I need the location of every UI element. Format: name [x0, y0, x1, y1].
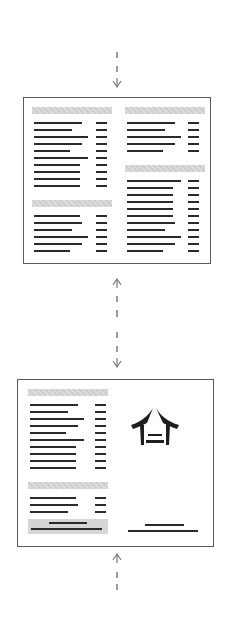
menu-item-line	[127, 150, 163, 152]
price-line	[96, 171, 107, 173]
section-header-bar	[28, 482, 108, 489]
price-line	[188, 180, 199, 182]
price-line	[188, 187, 199, 189]
menu-item-line	[127, 187, 173, 189]
price-line	[188, 129, 199, 131]
price-line	[96, 164, 107, 166]
price-line	[188, 208, 199, 210]
price-line	[95, 411, 106, 413]
menu-item-line	[127, 180, 181, 182]
menu-item-line	[34, 157, 88, 159]
price-line	[95, 467, 106, 469]
price-line	[95, 432, 106, 434]
menu-item-line	[30, 418, 84, 420]
section-header-bar	[125, 107, 205, 114]
price-line	[188, 136, 199, 138]
bottom-arrow	[110, 552, 124, 592]
section-header-bar	[28, 389, 108, 396]
menu-item-line	[34, 215, 80, 217]
menu-item-line	[127, 243, 175, 245]
menu-item-line	[30, 439, 84, 441]
contact-line	[145, 524, 184, 526]
price-line	[188, 236, 199, 238]
menu-item-line	[127, 129, 165, 131]
price-line	[96, 143, 107, 145]
menu-item-line	[34, 250, 70, 252]
menu-item-line	[34, 122, 82, 124]
section-header-bar	[32, 200, 112, 207]
price-line	[96, 243, 107, 245]
price-line	[96, 136, 107, 138]
price-line	[188, 215, 199, 217]
menu-item-line	[127, 136, 181, 138]
menu-item-line	[127, 122, 175, 124]
middle-arrow	[110, 272, 124, 372]
price-line	[188, 250, 199, 252]
menu-item-line	[30, 432, 66, 434]
price-line	[96, 150, 107, 152]
price-line	[96, 129, 107, 131]
price-line	[96, 229, 107, 231]
menu-item-line	[30, 497, 76, 499]
arrow-up-icon	[110, 552, 124, 592]
price-line	[95, 460, 106, 462]
price-line	[188, 201, 199, 203]
footer-line	[49, 522, 87, 524]
menu-item-line	[34, 171, 80, 173]
price-line	[95, 446, 106, 448]
menu-item-line	[127, 222, 175, 224]
menu-item-line	[34, 229, 72, 231]
price-line	[95, 497, 106, 499]
menu-item-line	[30, 404, 78, 406]
price-line	[95, 511, 106, 513]
price-line	[95, 504, 106, 506]
menu-item-line	[34, 129, 72, 131]
menu-item-line	[30, 446, 76, 448]
menu-item-line	[127, 236, 181, 238]
price-line	[96, 157, 107, 159]
menu-item-line	[34, 143, 82, 145]
menu-item-line	[30, 467, 76, 469]
menu-item-line	[30, 453, 76, 455]
menu-item-line	[34, 150, 70, 152]
menu-item-line	[127, 194, 173, 196]
menu-item-line	[30, 425, 78, 427]
pagoda-roof-icon	[129, 405, 181, 449]
menu-item-line	[34, 222, 82, 224]
price-line	[188, 122, 199, 124]
menu-item-line	[30, 460, 76, 462]
price-line	[188, 150, 199, 152]
price-line	[188, 222, 199, 224]
price-line	[188, 243, 199, 245]
menu-item-line	[34, 136, 88, 138]
menu-item-line	[34, 243, 82, 245]
top-arrow	[110, 50, 124, 90]
menu-item-line	[34, 185, 80, 187]
menu-item-line	[127, 208, 173, 210]
menu-item-line	[127, 201, 173, 203]
menu-item-line	[127, 229, 165, 231]
price-line	[96, 222, 107, 224]
price-line	[96, 236, 107, 238]
price-line	[96, 250, 107, 252]
menu-item-line	[34, 236, 88, 238]
menu-item-line	[30, 411, 68, 413]
section-header-bar	[32, 107, 112, 114]
price-line	[95, 404, 106, 406]
menu-item-line	[30, 511, 68, 513]
price-line	[95, 439, 106, 441]
menu-item-line	[127, 215, 173, 217]
price-line	[188, 229, 199, 231]
price-line	[95, 418, 106, 420]
menu-item-line	[30, 504, 78, 506]
arrow-bidirectional-icon	[110, 272, 124, 372]
price-line	[188, 143, 199, 145]
price-line	[96, 215, 107, 217]
section-header-bar	[125, 165, 205, 172]
menu-item-line	[127, 143, 175, 145]
price-line	[95, 425, 106, 427]
price-line	[96, 178, 107, 180]
menu-item-line	[34, 164, 80, 166]
price-line	[188, 194, 199, 196]
pagoda-roof-logo	[129, 405, 181, 449]
